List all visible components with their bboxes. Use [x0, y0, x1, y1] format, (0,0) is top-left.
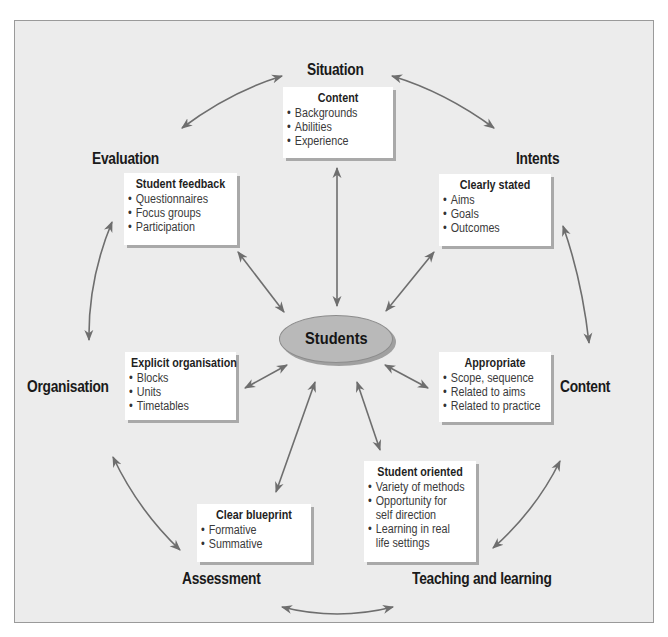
box-item: Experience [287, 134, 375, 148]
box-organisation-explicit: Explicit organisation Blocks Units Timet… [125, 352, 236, 420]
box-item: Blocks [129, 371, 218, 385]
label-content: Content [560, 378, 610, 396]
box-item: Backgrounds [287, 106, 375, 120]
box-item: Related to practice [443, 399, 532, 413]
box-item: Goals [443, 207, 532, 221]
arrow-students-teaching [357, 382, 380, 450]
box-title: Explicit organisation [131, 356, 230, 371]
box-item: Opportunity for [368, 494, 457, 508]
arrow-situation-intents [392, 76, 494, 128]
box-item: Outcomes [443, 221, 532, 235]
box-assessment-clear-blueprint: Clear blueprint Formative Summative [197, 504, 311, 562]
box-item: Learning in real [368, 522, 457, 536]
box-title: Student oriented [375, 465, 464, 480]
arrow-content-teaching [493, 461, 560, 548]
arrow-assessment-organisation [113, 457, 180, 550]
box-situation-content: Content Backgrounds Abilities Experience [283, 87, 393, 158]
arrow-intents-content [563, 226, 589, 343]
box-item: Formative [201, 523, 292, 537]
label-assessment: Assessment [182, 570, 261, 588]
box-item: Questionnaires [128, 192, 218, 206]
label-organisation: Organisation [27, 378, 109, 396]
box-item: Related to aims [443, 385, 532, 399]
arrow-situation-evaluation [182, 76, 282, 128]
arrow-teaching-assessment [282, 607, 393, 614]
box-content-appropriate: Appropriate Scope, sequence Related to a… [439, 352, 551, 422]
students-label: Students [305, 329, 368, 349]
arrow-students-organisation [245, 365, 287, 388]
box-evaluation-student-feedback: Student feedback Questionnaires Focus gr… [124, 173, 237, 245]
box-item-continuation: self direction [368, 508, 457, 522]
box-item: Abilities [287, 120, 375, 134]
label-situation: Situation [307, 61, 364, 79]
arrow-students-content [385, 365, 428, 388]
box-item-continuation: life settings [368, 536, 457, 550]
label-evaluation: Evaluation [92, 150, 159, 168]
box-intents-clearly-stated: Clearly stated Aims Goals Outcomes [439, 174, 551, 246]
label-teaching-and-learning: Teaching and learning [412, 570, 552, 588]
box-item: Variety of methods [368, 480, 457, 494]
box-title: Clearly stated [450, 178, 539, 193]
box-title: Appropriate [450, 356, 539, 371]
arrow-students-evaluation [238, 252, 284, 312]
label-intents: Intents [516, 150, 559, 168]
arrow-organisation-evaluation [89, 222, 112, 340]
arrow-students-assessment [276, 382, 315, 492]
box-item: Units [129, 385, 218, 399]
box-item: Summative [201, 537, 292, 551]
box-title: Clear blueprint [208, 508, 299, 523]
box-item: Timetables [129, 399, 218, 413]
arrow-students-intents [386, 252, 434, 311]
box-teaching-student-oriented: Student oriented Variety of methods Oppo… [364, 461, 476, 562]
box-item: Participation [128, 220, 218, 234]
box-title: Content [294, 91, 382, 106]
box-item: Scope, sequence [443, 371, 532, 385]
box-item: Aims [443, 193, 532, 207]
students-ellipse: Students [279, 315, 393, 363]
box-title: Student feedback [135, 177, 225, 192]
box-item: Focus groups [128, 206, 218, 220]
